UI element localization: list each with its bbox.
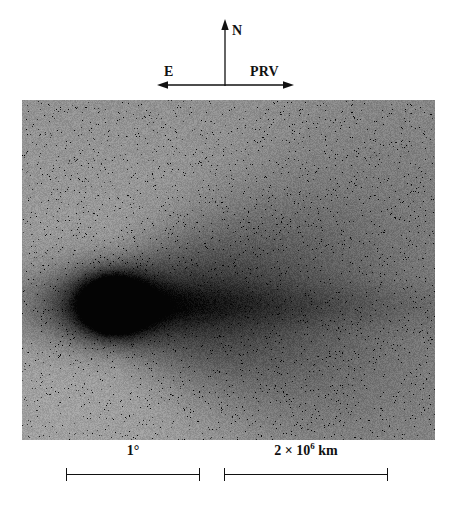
linear-scale-tick-right — [387, 468, 388, 481]
linear-scale-exponent: 6 — [310, 441, 315, 451]
angular-scale-rule — [66, 468, 200, 481]
angular-scale-line — [66, 474, 200, 475]
angular-scale-tick-right — [199, 468, 200, 481]
angular-scale-label: 1° — [66, 444, 200, 458]
linear-scale-mantissa: 2 × 10 — [274, 443, 310, 458]
scale-bar-group: 1° 2 × 106 km — [0, 444, 457, 492]
angular-scale-tick-left — [66, 468, 67, 481]
comet-image-plate — [22, 100, 435, 440]
linear-scale-unit: km — [318, 443, 337, 458]
linear-scale-rule — [224, 468, 388, 481]
compass-east-label: E — [164, 65, 174, 79]
compass-prv-label: PRV — [250, 65, 279, 79]
orientation-compass: N E PRV — [150, 8, 310, 96]
comet-image-canvas — [22, 100, 435, 440]
comet-figure: N E PRV 1° 2 × 106 km — [0, 0, 457, 508]
linear-scale-tick-left — [224, 468, 225, 481]
linear-scale-label: 2 × 106 km — [224, 444, 388, 458]
linear-scale-line — [224, 474, 388, 475]
compass-arrows-icon — [150, 8, 310, 96]
compass-north-label: N — [232, 24, 242, 38]
